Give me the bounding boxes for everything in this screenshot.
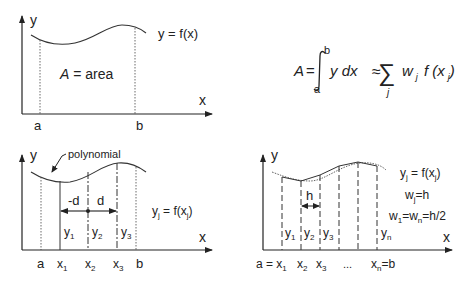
integral-lower: a — [314, 83, 321, 95]
tick-xn-b: xn=b — [371, 257, 395, 273]
integral-upper: b — [324, 44, 330, 56]
w1-wn-equation: w1=wn=h/2 — [388, 209, 446, 225]
yj-equation: yj = f(xj) — [152, 204, 193, 220]
tick-a-x1: a = x1 — [256, 257, 287, 273]
ordinate-y2: y2 — [304, 226, 315, 242]
ordinate-y1: y1 — [64, 225, 75, 241]
formula-equals: = — [306, 62, 315, 79]
tick-x2: x2 — [85, 257, 96, 273]
tick-ellipsis: ... — [343, 258, 352, 270]
sum-sign: ∑ — [378, 59, 395, 87]
tick-b: b — [136, 256, 143, 271]
ordinate-yn: yn — [381, 226, 391, 242]
minus-d-label: -d — [68, 193, 80, 208]
curve-label: y = f(x) — [158, 26, 198, 41]
formula-lhs: A — [293, 62, 304, 79]
yj-equation: yj = f(xj) — [400, 166, 441, 182]
y-axis-label: y — [271, 147, 278, 163]
panel-trapezoidal-rule: h y x yj = f(xj) wj=h w1=wn=h/2 y1 y2 y3… — [256, 147, 452, 273]
tick-a: a — [37, 256, 45, 271]
y-axis-label: y — [30, 147, 37, 163]
trapezoid-chords — [282, 162, 377, 181]
tick-x1: x1 — [57, 257, 68, 273]
polynomial-label: polynomial — [68, 148, 121, 160]
integrand: y dx — [329, 62, 358, 79]
integration-diagram: y x y = f(x) A = area a b A = b a y dx ≈… — [0, 0, 475, 282]
ordinate-y2: y2 — [92, 225, 103, 241]
panel-area-under-curve: y x y = f(x) A = area a b — [22, 12, 212, 133]
tick-b: b — [136, 118, 143, 133]
curve-f-x — [31, 25, 146, 44]
tick-x3: x3 — [316, 257, 327, 273]
x-axis-label: x — [199, 92, 206, 108]
function-value: f (xj) — [424, 62, 455, 82]
y-axis-label: y — [30, 12, 37, 28]
sum-index: j — [385, 87, 390, 98]
ordinate-y3: y3 — [323, 226, 334, 242]
ordinate-y3: y3 — [121, 225, 132, 241]
h-label: h — [306, 188, 313, 203]
d-label: d — [97, 193, 104, 208]
tick-x3: x3 — [113, 257, 124, 273]
panel-polynomial-fit: polynomial -d d y x yj = f(xj) y1 y2 y3 … — [22, 147, 212, 273]
weight: wj — [402, 62, 419, 82]
tick-a: a — [34, 118, 42, 133]
area-label: A = area — [59, 66, 114, 82]
x-axis-label: x — [199, 229, 206, 245]
tick-x2: x2 — [297, 257, 308, 273]
polynomial-leader — [52, 154, 66, 172]
wj-equation: wj=h — [404, 188, 429, 204]
center-dot — [86, 209, 90, 213]
quadrature-formula: A = b a y dx ≈ ∑ j wj f (xj) — [293, 44, 455, 98]
ordinate-y1: y1 — [285, 226, 296, 242]
x-axis-label: x — [443, 229, 450, 245]
